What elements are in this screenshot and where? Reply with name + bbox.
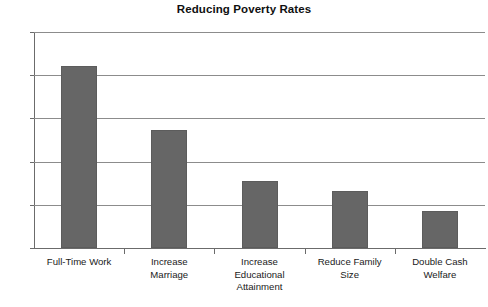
x-axis-category-label: Reduce FamilySize xyxy=(305,256,395,281)
x-axis-category-label-line: Double Cash xyxy=(395,256,485,269)
x-axis-category-label: IncreaseEducationalAttainment xyxy=(214,256,304,294)
x-axis-category-label-line: Welfare xyxy=(395,269,485,282)
x-axis-category-label-line: Educational xyxy=(214,269,304,282)
x-axis-category-label-line: Full-Time Work xyxy=(34,256,124,269)
x-axis-line xyxy=(34,248,486,249)
x-axis-category-label-line: Reduce Family xyxy=(305,256,395,269)
x-axis-category-label-line: Size xyxy=(305,269,395,282)
x-axis-category-label-line: Attainment xyxy=(214,281,304,294)
bar[interactable] xyxy=(61,66,97,248)
chart-title: Reducing Poverty Rates xyxy=(0,3,488,15)
gridline xyxy=(34,32,485,33)
x-axis-category-label: IncreaseMarriage xyxy=(124,256,214,281)
x-axis-category-label-line: Increase xyxy=(124,256,214,269)
x-axis-tick-mark xyxy=(305,249,306,254)
x-axis-tick-mark xyxy=(214,249,215,254)
bar[interactable] xyxy=(422,211,458,248)
bar[interactable] xyxy=(242,181,278,248)
x-axis-category-label-line: Increase xyxy=(214,256,304,269)
bar[interactable] xyxy=(332,191,368,248)
x-axis-tick-mark xyxy=(124,249,125,254)
plot-area xyxy=(34,32,485,248)
bar[interactable] xyxy=(151,130,187,248)
x-axis-category-label: Double CashWelfare xyxy=(395,256,485,281)
x-axis-category-label-line: Marriage xyxy=(124,269,214,282)
gridline xyxy=(34,75,485,76)
x-axis-category-label: Full-Time Work xyxy=(34,256,124,269)
bar-chart: Reducing Poverty Rates 01020304050 Full-… xyxy=(0,0,488,307)
x-axis-tick-mark xyxy=(395,249,396,254)
gridline xyxy=(34,118,485,119)
gridline xyxy=(34,162,485,163)
y-axis-tick-mark xyxy=(30,248,34,249)
